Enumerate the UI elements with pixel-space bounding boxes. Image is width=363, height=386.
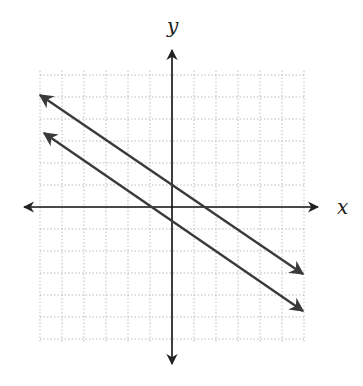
x-axis-label: x — [337, 195, 348, 219]
y-axis-label: y — [166, 14, 179, 38]
line-2 — [44, 133, 303, 311]
coordinate-plane: x y — [0, 0, 363, 386]
